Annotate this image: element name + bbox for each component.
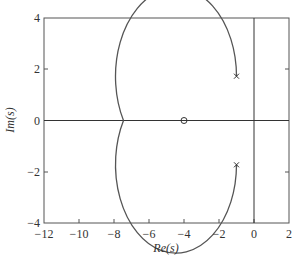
x-ticks	[79, 219, 254, 223]
svg-text:0: 0	[34, 114, 40, 128]
svg-text:0: 0	[251, 227, 257, 241]
svg-text:2: 2	[34, 62, 40, 76]
svg-text:−10: −10	[70, 227, 89, 241]
y-tick-labels: 4 2 0 −2 −4	[27, 11, 40, 230]
svg-text:4: 4	[34, 11, 40, 25]
svg-text:−6: −6	[143, 227, 156, 241]
svg-text:2: 2	[286, 227, 292, 241]
svg-text:−2: −2	[213, 227, 226, 241]
svg-text:−4: −4	[178, 227, 191, 241]
x-tick-labels: −12 −10 −8 −6 −4 −2 0 2	[35, 227, 292, 241]
x-axis-label: Re(s)	[152, 241, 178, 255]
svg-text:−4: −4	[27, 216, 40, 230]
svg-text:−2: −2	[27, 165, 40, 179]
svg-text:−8: −8	[108, 227, 121, 241]
root-locus-chart: −12 −10 −8 −6 −4 −2 0 2 4 2 0 −2 −4 Re(s…	[0, 0, 306, 263]
y-axis-label: Im(s)	[3, 107, 17, 133]
